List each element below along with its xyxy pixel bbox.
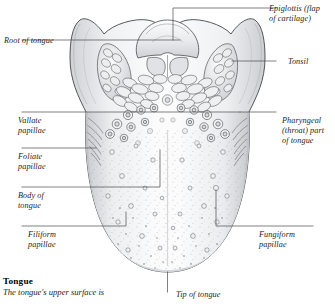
label-filiform-papillae: Filiform papillae bbox=[28, 230, 98, 250]
label-vallate-papillae: Vallate papillae bbox=[18, 116, 88, 136]
label-pharyngeal-part: Pharyngeal (throat) part of tongue bbox=[282, 116, 335, 147]
label-tip-of-tongue: Tip of tongue bbox=[176, 290, 256, 300]
label-tonsil: Tonsil bbox=[288, 57, 335, 67]
tongue-anatomy-figure: Epiglottis (flap of cartilage) Tonsil Ro… bbox=[0, 0, 335, 308]
label-body-of-tongue: Body of tongue bbox=[18, 191, 88, 211]
caption-title: Tongue bbox=[3, 276, 173, 287]
caption-text: The tongue's upper surface is bbox=[3, 287, 173, 298]
label-foliate-papillae: Foliate papillae bbox=[18, 152, 88, 172]
tongue-body-surface bbox=[86, 112, 251, 275]
label-epiglottis: Epiglottis (flap of cartilage) bbox=[269, 4, 335, 24]
label-root-of-tongue: Root of tongue bbox=[4, 36, 94, 46]
label-fungiform-papillae: Fungiform papillae bbox=[259, 230, 331, 250]
figure-caption: Tongue The tongue's upper surface is bbox=[3, 276, 173, 298]
